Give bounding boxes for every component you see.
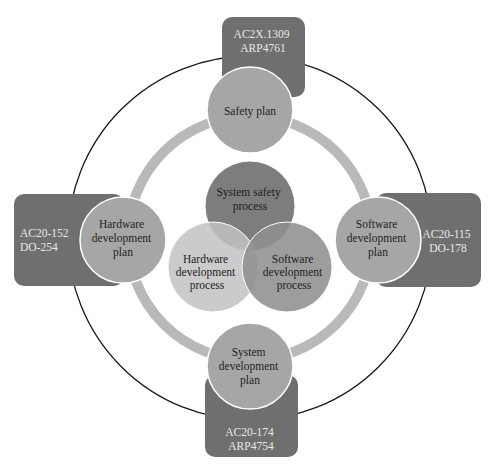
process-diagram: AC2X.1309 ARP4761 AC20-152 DO-254 AC20-1… [0, 0, 496, 473]
plan-safety-label: Safety plan [224, 105, 276, 118]
